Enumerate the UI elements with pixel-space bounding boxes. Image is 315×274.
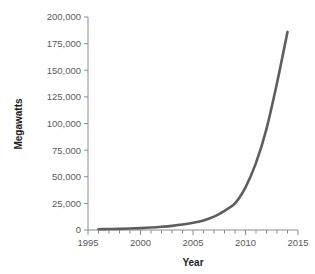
x-axis-tick-label: 2015 [287,237,308,248]
line-chart: 025,00050,00075,000100,000125,000150,000… [0,0,315,274]
y-axis-tick-label: 125,000 [47,91,81,102]
x-axis-title: Year [182,257,203,268]
y-axis-tick-label: 50,000 [52,171,81,182]
y-axis-tick-label: 100,000 [47,118,81,129]
x-axis-tick-label: 2010 [235,237,256,248]
y-axis-tick-label: 25,000 [52,198,81,209]
y-axis-tick-label: 175,000 [47,38,81,49]
y-axis-tick-label: 0 [76,224,81,235]
x-axis-tick-label: 2005 [182,237,203,248]
chart-container: 025,00050,00075,000100,000125,000150,000… [0,0,315,274]
y-axis-tick-label: 150,000 [47,65,81,76]
y-axis-tick-labels: 025,00050,00075,000100,000125,000150,000… [47,11,81,235]
y-axis-tick-label: 75,000 [52,145,81,156]
y-axis-title: Megawatts [13,98,24,150]
x-axis-tick-label: 1995 [77,237,98,248]
x-axis-tick-label: 2000 [130,237,151,248]
y-axis-tick-label: 200,000 [47,11,81,22]
